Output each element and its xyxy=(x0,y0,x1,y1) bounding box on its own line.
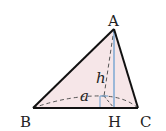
label-a-vertex: A xyxy=(107,12,119,30)
label-h-foot: H xyxy=(108,113,121,131)
label-c-vertex: C xyxy=(140,113,151,131)
label-b-vertex: B xyxy=(20,113,31,131)
label-side-a: a xyxy=(80,87,89,105)
label-height-h: h xyxy=(96,69,106,87)
triangle-diagram: A B C H h a xyxy=(0,0,166,131)
